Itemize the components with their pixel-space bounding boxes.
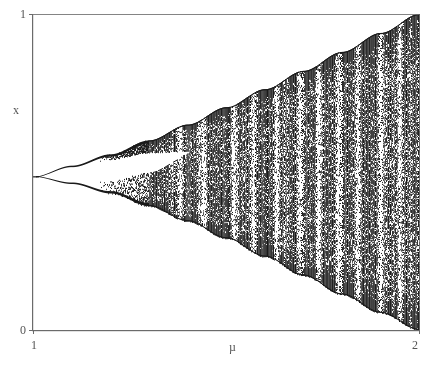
- y-axis-tick-label-bottom: 0: [20, 324, 26, 336]
- bifurcation-plot-canvas: [0, 0, 438, 365]
- bifurcation-figure: 1 0 x 1 2 µ: [0, 0, 438, 365]
- y-axis-title: x: [13, 104, 19, 116]
- x-axis-title: µ: [229, 341, 236, 353]
- x-axis-tick-label-left: 1: [31, 339, 37, 351]
- y-axis-tick-label-top: 1: [20, 8, 26, 20]
- x-axis-tick-label-right: 2: [412, 339, 418, 351]
